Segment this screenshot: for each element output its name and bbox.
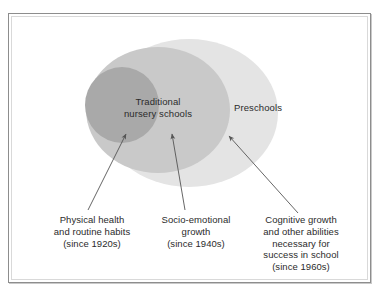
venn-label-traditional-nursery-schools: Traditional nursery schools bbox=[106, 96, 210, 119]
annotation-cognitive-growth: Cognitive growth and other abilities nec… bbox=[246, 214, 356, 273]
venn-label-preschools: Preschools bbox=[218, 102, 298, 114]
annotation-physical-health: Physical health and routine habits (sinc… bbox=[36, 214, 148, 249]
annotation-socio-emotional: Socio-emotional growth (since 1940s) bbox=[146, 214, 246, 249]
figure-canvas: Traditional nursery schools Preschools P… bbox=[0, 0, 383, 295]
